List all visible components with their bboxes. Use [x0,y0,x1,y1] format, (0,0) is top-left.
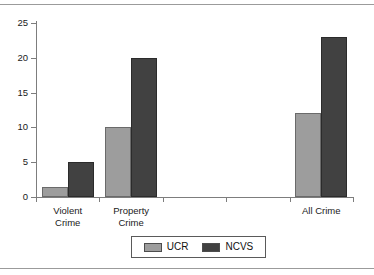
x-tick-label: All Crime [276,205,366,217]
x-tick-label-line: Crime [86,217,176,229]
x-tick-mark [290,197,291,202]
x-tick-mark [163,197,164,202]
bar-chart-figure: 0510152025 ViolentCrimePropertyCrimeAll … [0,0,374,275]
ucr-swatch-icon [144,243,162,252]
x-tick-label-line: Property [86,205,176,217]
x-tick-mark [353,197,354,202]
ncvs-swatch-icon [202,243,220,252]
bar-ncvs-1 [131,58,157,197]
bar-ucr-4 [295,113,321,197]
top-divider-rule [0,4,374,5]
y-tick-label: 25 [2,18,28,28]
x-tick-mark [36,197,37,202]
legend-entry-ucr: UCR [144,242,189,252]
y-tick-label: 0 [2,192,28,202]
plot-area [36,23,353,197]
bar-ucr-1 [105,127,131,197]
legend-label-ncvs: NCVS [225,242,253,252]
y-tick-label: 20 [2,53,28,63]
legend-entry-ncvs: NCVS [202,242,253,252]
x-axis-line [36,197,354,198]
x-tick-mark [99,197,100,202]
x-tick-mark [226,197,227,202]
bar-ucr-0 [42,187,68,197]
bar-ncvs-0 [68,162,94,197]
y-tick-label: 15 [2,88,28,98]
legend-label-ucr: UCR [167,242,189,252]
bar-ncvs-4 [321,37,347,197]
chart-legend: UCR NCVS [131,236,266,258]
x-tick-label: PropertyCrime [86,205,176,228]
y-tick-label: 10 [2,122,28,132]
x-tick-label-line: All Crime [276,205,366,217]
y-tick-label: 5 [2,157,28,167]
bottom-divider-rule [0,268,374,269]
